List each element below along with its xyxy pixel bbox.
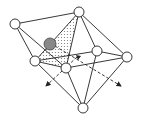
node-far-right [122,52,132,62]
node-left [10,19,20,29]
node-left-mid [30,56,40,66]
diagram-canvas [0,0,142,124]
node-right-mid [92,46,102,56]
node-top [74,7,84,17]
interstitial-atom [44,38,56,50]
node-bottom [78,103,88,113]
node-center [61,63,71,73]
